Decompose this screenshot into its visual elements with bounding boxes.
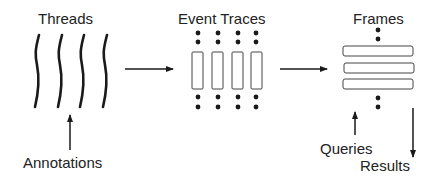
event-traces-group [192, 31, 262, 110]
frames-group [343, 28, 414, 110]
thread-line-2 [58, 35, 62, 107]
thread-line-1 [35, 35, 39, 107]
trace-box-2 [212, 52, 223, 89]
event-traces-label: Event Traces [178, 11, 266, 27]
frame-dots-bottom [376, 96, 381, 110]
trace-box-1 [192, 52, 203, 89]
annotations-label: Annotations [23, 155, 102, 171]
threads-label: Threads [38, 11, 93, 27]
thread-line-3 [80, 35, 84, 107]
trace-box-4 [251, 52, 262, 89]
frame-box-3 [343, 79, 413, 89]
thread-line-4 [103, 35, 107, 107]
trace-dots-bottom [196, 95, 259, 110]
frame-box-2 [344, 63, 414, 73]
frames-label: Frames [353, 11, 404, 27]
frame-box-1 [343, 46, 413, 56]
queries-label: Queries [320, 141, 373, 157]
frame-dots-top [376, 28, 381, 42]
threads-group [35, 35, 107, 107]
trace-box-3 [232, 52, 243, 89]
trace-boxes [192, 52, 262, 89]
trace-dots-top [196, 31, 259, 45]
results-label: Results [360, 158, 410, 174]
frame-boxes [343, 46, 414, 89]
